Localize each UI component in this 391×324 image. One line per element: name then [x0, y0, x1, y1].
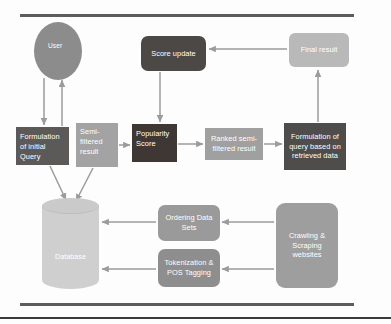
- node-semi-filtered-result[interactable]: Semi-filtered result: [76, 123, 118, 167]
- node-ranked-semi-filtered-result[interactable]: Ranked semi-filtered result: [205, 128, 263, 160]
- node-crawling-scraping-websites-label: Crawling & Scraping websites: [279, 231, 335, 261]
- node-ordering-data-sets[interactable]: Ordering Data Sets: [158, 205, 220, 241]
- node-tokenization-pos-tagging[interactable]: Tokenization & POS Tagging: [158, 249, 220, 287]
- node-popularity-score-label: Popularity Score: [136, 129, 173, 149]
- node-popularity-score[interactable]: Popularity Score: [132, 124, 177, 162]
- node-crawling-scraping-websites[interactable]: Crawling & Scraping websites: [276, 203, 338, 288]
- bottom-rule: [20, 303, 354, 306]
- node-ordering-data-sets-label: Ordering Data Sets: [161, 213, 217, 233]
- node-user[interactable]: User: [34, 22, 82, 80]
- database-cylinder-top: [42, 198, 99, 214]
- node-final-result[interactable]: Final result: [289, 33, 349, 67]
- node-database[interactable]: Database: [42, 198, 99, 296]
- node-score-update-label: Score update: [151, 49, 196, 59]
- node-final-result-label: Final result: [301, 45, 338, 55]
- node-formulation-initial-query[interactable]: Formulation of initial Query: [16, 127, 69, 165]
- page-rule: [0, 317, 391, 319]
- top-rule: [20, 14, 354, 17]
- link-semifiltered-to-database: [76, 168, 93, 201]
- node-semi-filtered-result-label: Semi-filtered result: [80, 127, 114, 157]
- diagram-canvas: User Formulation of initial Query Semi-f…: [0, 0, 391, 324]
- node-user-label: User: [48, 42, 62, 51]
- node-database-label: Database: [42, 252, 99, 261]
- node-formulation-query-retrieved[interactable]: Formulation of query based on retrieved …: [284, 123, 346, 170]
- node-score-update[interactable]: Score update: [141, 36, 206, 71]
- node-ranked-semi-filtered-result-label: Ranked semi-filtered result: [208, 134, 260, 154]
- link-formulation-to-database: [50, 166, 66, 200]
- database-cylinder-body: [42, 205, 99, 289]
- node-formulation-initial-query-label: Formulation of initial Query: [20, 132, 65, 162]
- node-formulation-query-retrieved-label: Formulation of query based on retrieved …: [287, 132, 343, 162]
- node-tokenization-pos-tagging-label: Tokenization & POS Tagging: [161, 258, 217, 278]
